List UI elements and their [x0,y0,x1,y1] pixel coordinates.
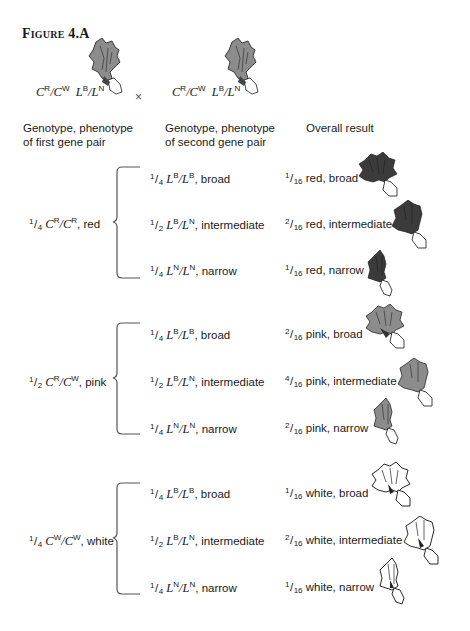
second-gene-row: 1/2 LB/LN, intermediate [150,372,265,393]
white-narrow-flower-icon [376,558,408,606]
figure-title: Figure 4.A [22,26,89,42]
header-overall-result: Overall result [306,121,374,135]
header-line: Genotype, phenotype [165,121,275,135]
brace-icon [110,482,142,596]
fraction: 1/4 [29,218,42,230]
result-row: 2/16 red, intermediate [285,215,392,235]
result-row: 1/16 red, narrow [285,261,364,281]
first-gene-label: 1/2 CR/CW, pink [29,372,106,393]
allele-text: L [209,85,219,99]
red-broad-flower-icon [357,152,401,198]
second-gene-row: 1/2 LB/LN, intermediate [150,215,265,236]
white-intermediate-flower-icon [402,516,442,566]
first-gene-label: 1/4 CR/CR, red [29,214,100,235]
red-intermediate-flower-icon [390,200,430,250]
brace-icon [110,166,142,280]
allele-superscript: W [198,84,206,93]
result-row: 1/16 red, broad [285,169,358,189]
allele-text: /L [224,85,234,99]
second-gene-row: 1/4 LB/LB, broad [150,325,230,346]
parent2-genotype: CR/CW LB/LN [172,84,240,100]
allele-text: L [73,85,83,99]
second-gene-row: 1/4 LN/LN, narrow [150,578,237,599]
header-line: of second gene pair [165,135,275,149]
brace-icon [110,322,142,436]
cross-symbol: × [135,90,142,104]
first-gene-label: 1/4 CW/CW, white [29,531,114,552]
parent1-genotype: CR/CW LB/LN [36,84,104,100]
header-line: Genotype, phenotype [23,121,133,135]
allele-superscript: N [234,84,240,93]
result-row: 2/16 pink, narrow [285,419,368,439]
second-gene-row: 1/2 LB/LN, intermediate [150,531,265,552]
second-gene-row: 1/4 LN/LN, narrow [150,419,237,440]
allele-superscript: W [62,84,70,93]
red-narrow-flower-icon [364,250,396,298]
white-broad-flower-icon [370,462,414,508]
header-line: of first gene pair [23,135,133,149]
result-row: 1/16 white, narrow [285,578,374,598]
second-gene-row: 1/4 LN/LN, narrow [150,261,237,282]
result-row: 4/16 pink, intermediate [285,372,397,392]
second-gene-row: 1/4 LB/LB, broad [150,484,230,505]
allele-superscript: N [98,84,104,93]
result-row: 1/16 white, broad [285,484,368,504]
header-second-gene-pair: Genotype, phenotype of second gene pair [165,121,275,149]
pink-broad-flower-icon [364,304,408,350]
allele-text: /C [186,85,198,99]
second-gene-row: 1/4 LB/LB, broad [150,169,230,190]
pink-intermediate-flower-icon [396,358,436,408]
result-row: 2/16 pink, broad [285,325,363,345]
allele-text: /L [88,85,98,99]
allele-text: /C [50,85,62,99]
pink-narrow-flower-icon [370,398,402,446]
result-row: 2/16 white, intermediate [285,531,402,551]
header-first-gene-pair: Genotype, phenotype of first gene pair [23,121,133,149]
